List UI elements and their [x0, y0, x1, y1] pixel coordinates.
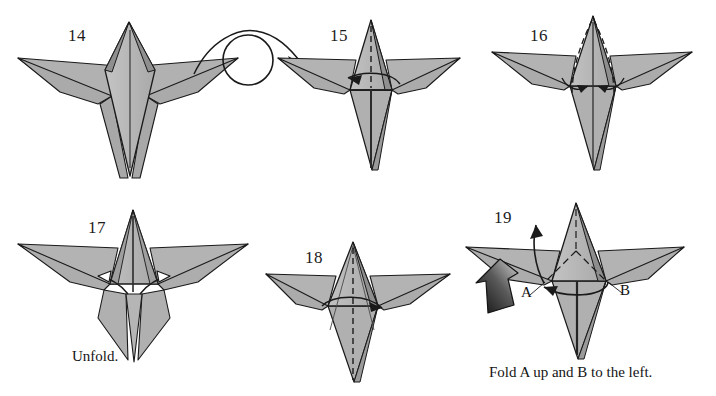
figure-step-17	[10, 200, 260, 385]
point-label-B: B	[620, 282, 630, 299]
figure-step-15	[268, 0, 468, 185]
paper-facet-lower-right-flap	[138, 290, 170, 360]
label-A-leader-line	[530, 283, 544, 295]
caption-step-19: Fold A up and B to the left.	[489, 364, 652, 381]
fold-up-arrowhead	[530, 225, 543, 239]
figure-step-16	[480, 0, 716, 185]
point-label-A: A	[521, 284, 532, 301]
caption-step-17: Unfold.	[72, 348, 118, 365]
turn-over-circle	[223, 35, 273, 85]
figure-step-19	[440, 195, 716, 365]
figure-step-18	[258, 230, 458, 395]
origami-diagram-sheet: 14 15	[0, 0, 716, 396]
